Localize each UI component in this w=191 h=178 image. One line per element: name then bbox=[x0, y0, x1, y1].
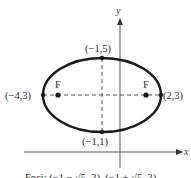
vertex-top-label: (−1,5) bbox=[85, 43, 112, 55]
focus-left-label: F bbox=[55, 79, 61, 90]
ellipse-diagram: x y F F (−4,3) (2,3) (−1,5) (−1,1) Foci:… bbox=[0, 0, 191, 178]
vertex-left-label: (−4,3) bbox=[5, 90, 32, 102]
focus-right-point bbox=[143, 92, 148, 97]
y-axis-label: y bbox=[115, 5, 121, 16]
vertex-left-point bbox=[41, 93, 45, 97]
focus-left-point bbox=[55, 92, 60, 97]
foci-caption: Foci: (−1 − √5, 3), (−1 + √5, 3) bbox=[25, 172, 157, 178]
vertex-bottom-point bbox=[100, 130, 104, 134]
vertex-top-point bbox=[100, 56, 104, 60]
vertex-bottom-label: (−1,1) bbox=[82, 136, 109, 148]
focus-right-label: F bbox=[143, 79, 149, 90]
x-axis-label: x bbox=[183, 146, 189, 157]
vertex-right-label: (2,3) bbox=[163, 90, 184, 102]
